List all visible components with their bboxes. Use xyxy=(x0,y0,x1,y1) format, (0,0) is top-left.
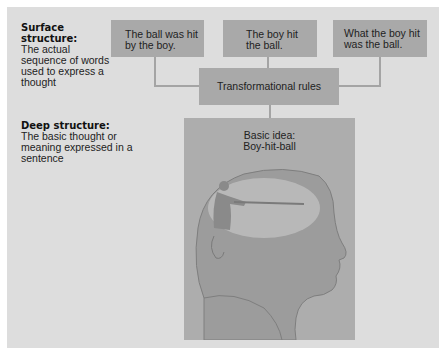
deep-structure-description: The basic thought or meaning expressed i… xyxy=(21,130,133,164)
connector-line xyxy=(379,57,381,87)
deep-structure-label: Deep structure: The basic thought or mea… xyxy=(21,120,136,164)
transformational-rules-box: Transformational rules xyxy=(199,68,339,105)
basic-idea-label: Basic idea: Boy-hit-ball xyxy=(184,130,355,152)
sentence-line: What the boy hit xyxy=(333,20,427,39)
surface-structure-heading: Surface structure: xyxy=(21,22,116,44)
connector-line xyxy=(154,85,200,87)
connector-line xyxy=(267,57,269,68)
basic-idea-value: Boy-hit-ball xyxy=(184,141,355,152)
sentence-line: by the boy. xyxy=(111,40,204,51)
sentence-box-cleft: What the boy hit was the ball. xyxy=(333,20,427,57)
sentence-line: the ball. xyxy=(223,40,317,51)
surface-structure-description: The actual sequence of words used to exp… xyxy=(21,43,109,88)
connector-line xyxy=(154,57,156,87)
connector-line xyxy=(269,105,271,118)
sentence-line: The ball was hit xyxy=(111,20,204,40)
deep-structure-box: Basic idea: Boy-hit-ball xyxy=(184,118,355,340)
connector-line xyxy=(338,85,381,87)
transformational-rules-label: Transformational rules xyxy=(199,68,339,92)
sentence-line: was the ball. xyxy=(333,39,427,50)
sentence-box-passive: The ball was hit by the boy. xyxy=(111,20,204,57)
sentence-line: The boy hit xyxy=(223,20,317,40)
surface-structure-label: Surface structure: The actual sequence o… xyxy=(21,22,116,88)
sentence-box-active: The boy hit the ball. xyxy=(223,20,317,57)
